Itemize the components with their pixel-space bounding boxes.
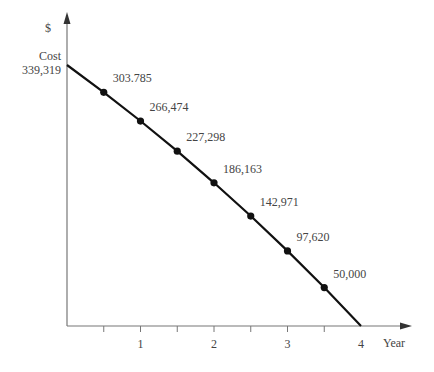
x-tick-label: 2: [211, 337, 217, 351]
x-tick-label: 1: [138, 337, 144, 351]
x-axis-arrow-icon: [400, 323, 412, 330]
data-label: 227,298: [186, 130, 225, 144]
data-point: [174, 148, 181, 155]
data-label: 142,971: [260, 195, 299, 209]
x-ticks: [104, 326, 325, 332]
data-label: 266,474: [150, 100, 189, 114]
data-point: [100, 89, 107, 96]
x-tick-label: 3: [285, 337, 291, 351]
depreciation-chart: 1234 303.785266,474227,298186,163142,971…: [0, 0, 434, 372]
data-point: [137, 117, 144, 124]
y-axis-label: $: [45, 21, 51, 35]
data-point: [284, 247, 291, 254]
x-tick-labels: 1234: [138, 337, 365, 351]
data-point: [247, 212, 254, 219]
y-axis-arrow-icon: [64, 12, 71, 24]
data-point: [321, 284, 328, 291]
data-points: [100, 89, 328, 291]
data-label: 186,163: [223, 162, 262, 176]
x-tick-label: 4: [358, 337, 364, 351]
data-labels: 303.785266,474227,298186,163142,97197,62…: [113, 71, 367, 280]
start-value-label: 339,319: [22, 63, 61, 77]
data-label: 303.785: [113, 71, 152, 85]
data-label: 50,000: [333, 267, 366, 281]
x-axis-label: Year: [383, 336, 405, 350]
data-point: [210, 179, 217, 186]
cost-curve: [67, 65, 361, 326]
cost-label: Cost: [39, 49, 62, 63]
data-label: 97,620: [297, 230, 330, 244]
